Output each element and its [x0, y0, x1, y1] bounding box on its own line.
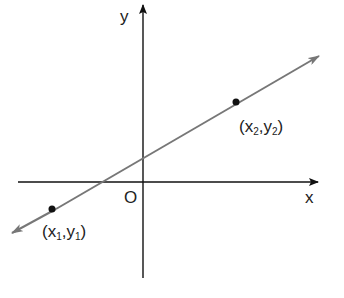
- x-axis-label: x: [305, 189, 314, 206]
- point-2-dot: [233, 99, 240, 106]
- x-symbol: x: [245, 117, 254, 136]
- point-1-label: (x1,y1): [42, 223, 86, 242]
- y-symbol: y: [66, 222, 75, 241]
- paren-close: ): [81, 222, 87, 241]
- origin-label: O: [124, 189, 137, 206]
- point-1-dot: [49, 206, 56, 213]
- y-axis-label: y: [120, 8, 129, 25]
- coordinate-plane: [0, 0, 344, 298]
- x-symbol: x: [48, 222, 57, 241]
- y-symbol: y: [263, 117, 272, 136]
- point-2-label: (x2,y2): [239, 118, 283, 137]
- paren-close: ): [278, 117, 284, 136]
